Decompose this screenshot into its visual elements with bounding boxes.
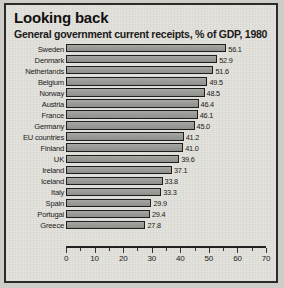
bar-value-label: 48.5 (207, 88, 220, 97)
x-axis-tick-label: 50 (205, 254, 214, 263)
bar-category-label: Austria (42, 99, 64, 108)
bar-category-label: EU countries (23, 132, 64, 141)
x-axis-tick-label: 70 (262, 254, 271, 263)
bar-row: Netherlands51.6 (6, 65, 276, 76)
bar-category-label: Norway (39, 88, 64, 97)
x-axis-tick-label: 0 (64, 254, 68, 263)
bar (66, 155, 179, 163)
x-axis-major-tick (209, 248, 210, 253)
bar-value-label: 45.0 (197, 121, 210, 130)
x-axis-major-tick (266, 248, 267, 253)
x-axis-tick-label: 60 (233, 254, 242, 263)
bar (66, 77, 207, 85)
bar-value-label: 56.1 (228, 44, 241, 53)
x-axis-tick-label: 10 (90, 254, 99, 263)
bar-value-label: 27.8 (147, 221, 160, 230)
bar-category-label: Italy (51, 188, 64, 197)
bar (66, 199, 151, 207)
bar-category-label: Greece (40, 221, 64, 230)
bar-value-label: 39.6 (181, 155, 194, 164)
bar-row: Germany45.0 (6, 120, 276, 131)
x-axis-minor-tick (166, 248, 167, 251)
plot-area: Sweden56.1Denmark52.9Netherlands51.6Belg… (6, 43, 276, 283)
bar (66, 166, 172, 174)
x-axis-minor-tick (195, 248, 196, 251)
bar-row: Denmark52.9 (6, 54, 276, 65)
bar-row: Portugal29.4 (6, 209, 276, 220)
bar-category-label: Germany (34, 121, 64, 130)
bar-value-label: 46.1 (200, 110, 213, 119)
bar-category-label: Finland (40, 143, 64, 152)
bar-value-label: 29.4 (152, 210, 165, 219)
bar-row: Sweden56.1 (6, 43, 276, 54)
x-axis-tick-label: 40 (176, 254, 185, 263)
bar-row: Greece27.8 (6, 220, 276, 231)
bar-category-label: Netherlands (25, 66, 64, 75)
bar (66, 55, 217, 63)
x-axis-minor-tick (223, 248, 224, 251)
x-axis-major-tick (180, 248, 181, 253)
x-axis-major-tick (95, 248, 96, 253)
bar (66, 143, 183, 151)
bar-value-label: 33.3 (163, 188, 176, 197)
bar-row: Italy33.3 (6, 187, 276, 198)
bar-value-label: 46.4 (201, 99, 214, 108)
bar-category-label: Belgium (38, 77, 64, 86)
bar (66, 99, 199, 107)
bar-category-label: Ireland (42, 166, 64, 175)
x-axis-tick-label: 20 (119, 254, 128, 263)
bar-row: UK39.6 (6, 154, 276, 165)
bar-category-label: France (42, 110, 64, 119)
bar-value-label: 41.0 (185, 143, 198, 152)
bar-row: Norway48.5 (6, 87, 276, 98)
bar-row: Ireland37.1 (6, 165, 276, 176)
bar (66, 221, 145, 229)
bar (66, 188, 161, 196)
bar (66, 88, 205, 96)
bar-category-label: UK (54, 155, 64, 164)
x-axis-minor-tick (80, 248, 81, 251)
bar-value-label: 37.1 (174, 166, 187, 175)
bar-category-label: Sweden (38, 44, 64, 53)
bar (66, 121, 195, 129)
bar-category-label: Iceland (41, 177, 64, 186)
bar (66, 177, 163, 185)
bar-category-label: Denmark (35, 55, 64, 64)
x-axis-minor-tick (137, 248, 138, 251)
bar (66, 44, 226, 52)
bar (66, 66, 213, 74)
bar-value-label: 51.6 (215, 66, 228, 75)
bar-row: Iceland33.8 (6, 176, 276, 187)
bar-category-label: Spain (46, 199, 64, 208)
bar (66, 132, 184, 140)
bar-value-label: 41.2 (186, 132, 199, 141)
bar-row: Austria46.4 (6, 98, 276, 109)
chart-subtitle: General government current receipts, % o… (14, 28, 267, 40)
x-axis-tick-label: 30 (147, 254, 156, 263)
bar-value-label: 33.8 (165, 177, 178, 186)
bar-row: Spain29.9 (6, 198, 276, 209)
bar-row: Finland41.0 (6, 142, 276, 153)
x-axis-minor-tick (252, 248, 253, 251)
bar-row: Belgium49.5 (6, 76, 276, 87)
chart-panel: Looking back General government current … (4, 3, 278, 283)
chart-title: Looking back (14, 9, 108, 26)
x-axis-major-tick (123, 248, 124, 253)
bar-value-label: 49.5 (209, 77, 222, 86)
bar-category-label: Portugal (37, 210, 64, 219)
x-axis-minor-tick (109, 248, 110, 251)
bar (66, 110, 198, 118)
bar-value-label: 29.9 (153, 199, 166, 208)
bar-row: France46.1 (6, 109, 276, 120)
x-axis-major-tick (152, 248, 153, 253)
bar-value-label: 52.9 (219, 55, 232, 64)
x-axis-major-tick (237, 248, 238, 253)
bar (66, 210, 150, 218)
x-axis-major-tick (66, 248, 67, 253)
bar-row: EU countries41.2 (6, 131, 276, 142)
